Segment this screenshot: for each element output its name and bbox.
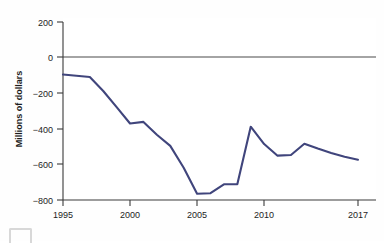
y-tick-label-minus600: −600 [33,160,53,170]
y-axis-ticks [57,22,63,200]
y-axis-title: Millions of dollars [14,71,24,148]
y-tick-label-minus200: −200 [33,89,53,99]
x-tick-label-2017: 2017 [348,210,368,220]
y-tick-label-minus800: −800 [33,196,53,206]
x-tick-label-2005: 2005 [187,210,207,220]
plot-area-background [63,18,376,200]
y-tick-label-0: 0 [48,53,53,63]
page-scan-marker [9,228,32,243]
x-tick-label-2010: 2010 [254,210,274,220]
y-tick-label-200: 200 [38,18,53,28]
x-axis-ticks [63,200,358,206]
x-tick-label-1995: 1995 [53,210,73,220]
y-tick-label-minus400: −400 [33,125,53,135]
x-tick-label-2000: 2000 [120,210,140,220]
